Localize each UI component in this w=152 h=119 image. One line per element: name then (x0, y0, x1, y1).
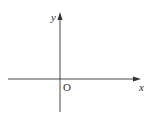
y-axis-label: y (50, 11, 56, 23)
x-axis-label: x (138, 81, 144, 93)
origin-label: O (63, 81, 71, 93)
coordinate-plane: y O x (0, 0, 152, 119)
y-axis-arrow-icon (58, 12, 63, 20)
